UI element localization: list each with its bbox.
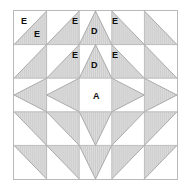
row-5-units: [14, 145, 177, 179]
row-4-units: [14, 112, 177, 146]
label-d-top: D: [91, 27, 98, 36]
label-a-center: A: [93, 92, 100, 101]
label-e-row2-right: E: [112, 51, 118, 60]
label-e-top-mid-left: E: [72, 17, 78, 26]
quilt-block-frame: E E E D E E D E A: [13, 10, 178, 180]
label-d-row2: D: [91, 61, 98, 70]
label-e-top-left-inner: E: [34, 30, 40, 39]
label-e-top-left-outer: E: [21, 17, 27, 26]
label-e-row2-left: E: [72, 51, 78, 60]
label-e-top-mid-right: E: [112, 17, 118, 26]
quilt-block-diagram: E E E D E E D E A: [0, 0, 184, 186]
